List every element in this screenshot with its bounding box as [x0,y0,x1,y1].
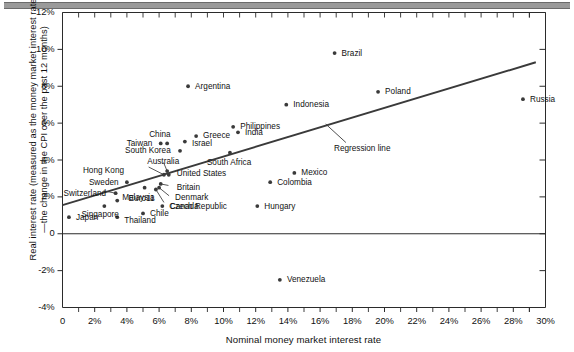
y-tick-label: 12% [15,6,55,17]
label-leader-line-3 [156,190,164,203]
regression-leader-line [326,124,346,142]
plot-area [0,0,574,352]
data-point-label: India [245,128,263,137]
y-tick-label: 8% [15,80,55,91]
y-tick-label: -4% [15,301,55,312]
data-point-label: Chile [150,209,169,218]
scatter-chart-figure: Real interest rate (measured as the mone… [0,0,574,352]
data-point-label: Switzerland [64,189,107,198]
data-point[interactable] [67,215,71,219]
data-point-label: Russia [530,95,555,104]
y-tick-label: 4% [15,154,55,165]
data-point[interactable] [125,180,129,184]
data-point[interactable] [186,84,190,88]
data-point-label: Hong Kong [83,166,124,175]
data-point-label: Brazil [342,49,363,58]
data-point-label: Euro11 [129,194,155,203]
data-point-label: Hungary [264,202,295,211]
data-point[interactable] [194,134,198,138]
label-leader-line-2 [159,188,169,196]
data-point[interactable] [115,199,119,203]
data-point-label: Indonesia [293,100,329,109]
data-point[interactable] [154,188,158,192]
axes-layer [58,13,546,313]
data-point[interactable] [183,140,187,144]
data-point[interactable] [521,97,525,101]
data-point[interactable] [292,171,296,175]
y-tick-label: 6% [15,117,55,128]
data-point[interactable] [278,278,282,282]
data-point-label: China [149,130,171,139]
data-point-label: Britain [177,183,200,192]
data-point[interactable] [159,182,163,186]
data-point[interactable] [268,180,272,184]
data-point[interactable] [114,191,118,195]
data-point[interactable] [165,142,169,146]
y-tick-label: 10% [15,43,55,54]
data-point[interactable] [231,125,235,129]
data-point[interactable] [178,149,182,153]
label-leader-line-0 [149,167,164,175]
data-point-label: Colombia [277,178,312,187]
data-point[interactable] [162,173,166,177]
data-point[interactable] [255,204,259,208]
data-point[interactable] [160,204,164,208]
regression-line-annotation: Regression line [334,144,390,153]
data-point-label: Poland [385,87,411,96]
data-point-label: Greece [203,131,230,140]
data-point[interactable] [102,204,106,208]
data-point-label: South Korea [125,146,171,155]
data-point-label: South Africa [207,158,251,167]
data-point[interactable] [167,173,171,177]
data-point-label: Argentina [195,82,230,91]
data-point-label: Singapore [81,210,119,219]
data-point-label: Mexico [301,168,327,177]
data-point[interactable] [228,151,232,155]
data-point[interactable] [165,169,169,173]
data-point-label: Sweden [89,178,119,187]
data-point-label: Australia [147,157,179,166]
y-tick-label: 2% [15,190,55,201]
data-point[interactable] [143,186,147,190]
data-point-label: United States [177,169,226,178]
data-point[interactable] [284,103,288,107]
data-point-label: Venezuela [287,275,325,284]
data-point[interactable] [333,51,337,55]
data-point-label: Czech Republic [169,202,227,211]
data-point[interactable] [376,90,380,94]
x-tick-label: 30% [526,315,566,326]
data-point[interactable] [157,186,161,190]
data-point[interactable] [159,142,163,146]
y-tick-label: -2% [15,264,55,275]
y-tick-label: 0 [15,227,55,238]
